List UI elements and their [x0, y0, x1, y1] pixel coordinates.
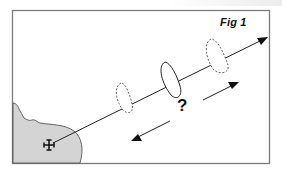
figure-label: Fig 1: [220, 16, 247, 28]
question-mark: ?: [177, 96, 187, 116]
